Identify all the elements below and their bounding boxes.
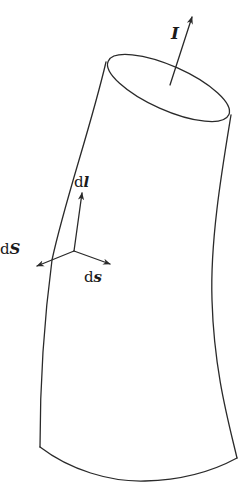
top-cross-section (99, 41, 237, 135)
dl-prefix: d (74, 173, 84, 191)
ds-symbol: s (94, 268, 102, 286)
conductor-right-edge (212, 115, 237, 458)
ds-label: ds (84, 270, 102, 285)
current-symbol: I (171, 23, 179, 43)
ds-prefix: d (84, 268, 94, 286)
dl-vector-arrow-icon (74, 193, 82, 251)
dS-prefix: d (0, 240, 10, 258)
dl-symbol: l (84, 173, 90, 191)
current-label: I (171, 25, 179, 42)
conductor-bottom-edge (40, 447, 237, 481)
ds-vector-arrow-icon (74, 251, 110, 264)
dS-label: dS (0, 242, 20, 257)
dS-vector-arrow-icon (37, 251, 74, 266)
dl-label: dl (74, 175, 89, 190)
conductor-left-edge (40, 62, 106, 447)
dS-symbol: S (10, 240, 21, 258)
conductor-diagram (0, 0, 252, 494)
